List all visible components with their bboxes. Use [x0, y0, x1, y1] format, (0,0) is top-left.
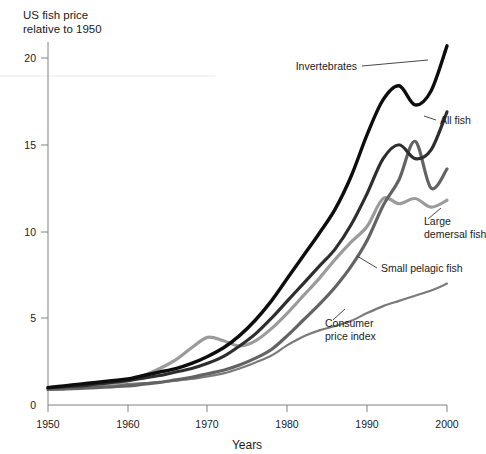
x-axis-title: Years [232, 438, 262, 452]
annotation-invertebrates: Invertebrates [296, 60, 428, 72]
y-axis-ticks: 20 15 10 5 0 [24, 52, 48, 411]
series-label-large-demersal-line-1: Large [424, 215, 451, 227]
leader-line-small-pelagic-fish [357, 256, 377, 268]
annotation-all-fish: All fish [424, 114, 471, 126]
series-label-cpi-line-1: Consumer [325, 317, 374, 329]
x-tick-label-1990: 1990 [355, 418, 379, 430]
series-line-invertebrates [48, 46, 447, 388]
series-group [48, 46, 447, 390]
x-tick-label-1960: 1960 [116, 418, 140, 430]
series-label-small-pelagic-fish: Small pelagic fish [381, 262, 463, 274]
y-tick-label-20: 20 [24, 52, 36, 64]
chart-title-line-2: relative to 1950 [23, 23, 102, 35]
series-line-consumer-price-index [48, 284, 447, 388]
x-tick-label-2000: 2000 [435, 418, 459, 430]
series-line-all-fish [48, 112, 447, 388]
annotation-large-demersal-fish: Large demersal fish [424, 208, 486, 240]
x-axis-ticks: 1950 1960 1970 1980 1990 2000 [36, 405, 459, 430]
x-tick-label-1950: 1950 [36, 418, 60, 430]
y-tick-label-10: 10 [24, 226, 36, 238]
leader-line-all-fish [424, 116, 436, 120]
chart-title-line-1: US fish price [23, 9, 88, 21]
annotation-consumer-price-index: Consumer price index [325, 309, 377, 342]
annotation-small-pelagic-fish: Small pelagic fish [357, 256, 463, 274]
chart-svg: US fish price relative to 1950 20 15 10 … [0, 0, 486, 454]
y-tick-label-5: 5 [30, 312, 36, 324]
fish-price-chart: US fish price relative to 1950 20 15 10 … [0, 0, 486, 454]
y-tick-label-15: 15 [24, 139, 36, 151]
series-label-all-fish: All fish [440, 114, 471, 126]
y-tick-label-0: 0 [30, 399, 36, 411]
leader-line-invertebrates [362, 60, 428, 66]
x-tick-label-1980: 1980 [275, 418, 299, 430]
series-label-cpi-line-2: price index [325, 330, 377, 342]
series-label-invertebrates: Invertebrates [296, 60, 357, 72]
series-label-large-demersal-line-2: demersal fish [424, 228, 486, 240]
x-tick-label-1970: 1970 [195, 418, 219, 430]
